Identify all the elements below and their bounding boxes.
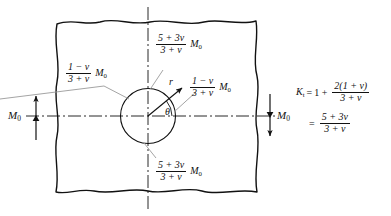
kt-symbol: Kt <box>296 86 305 98</box>
applied-moment-arrow-right-mid <box>267 112 274 118</box>
top-moment-numerator: 5 + 3ν <box>156 33 186 44</box>
equals-sign-2: = <box>309 118 315 129</box>
label-top-moment: 5 + 3ν 3 + ν M0 <box>156 33 202 55</box>
equation-1-denominator: 3 + ν <box>332 92 369 104</box>
right-moment-numerator: 1 − ν <box>190 76 215 87</box>
equation-1-numerator: 2(1 + ν) <box>332 81 369 92</box>
label-right-moment: 1 − ν 3 + ν M0 <box>190 76 231 98</box>
top-moment-factor: M0 <box>190 38 202 50</box>
label-radius: r <box>169 76 173 87</box>
left-moment-factor: M0 <box>95 67 107 79</box>
left-moment-denominator: 3 + ν <box>66 73 91 85</box>
label-bottom-moment: 5 + 3ν 3 + ν M0 <box>156 160 202 182</box>
equation-2-denominator: 3 + ν <box>320 123 350 135</box>
top-moment-denominator: 3 + ν <box>156 44 186 56</box>
stress-concentration-equation: Kt = 1 + 2(1 + ν) 3 + ν = 5 + 3ν 3 + ν <box>296 81 369 134</box>
bottom-moment-denominator: 3 + ν <box>156 171 186 183</box>
equation-2-numerator: 5 + 3ν <box>320 112 350 123</box>
equation-line-1: Kt = 1 + 2(1 + ν) 3 + ν <box>296 81 369 103</box>
equation-line-2: = 5 + 3ν 3 + ν <box>309 112 369 134</box>
label-left-moment: 1 − ν 3 + ν M0 <box>66 62 107 84</box>
bottom-moment-factor: M0 <box>190 165 202 177</box>
equals-sign-1: = <box>307 87 313 98</box>
label-theta: θ <box>165 106 170 117</box>
one-plus: 1 + <box>314 87 327 98</box>
figure-root: 5 + 3ν 3 + ν M0 5 + 3ν 3 + ν M0 1 − ν 3 … <box>0 0 391 216</box>
bottom-moment-numerator: 5 + 3ν <box>156 160 186 171</box>
right-moment-factor: M0 <box>219 81 231 93</box>
right-moment-denominator: 3 + ν <box>190 87 215 99</box>
left-moment-numerator: 1 − ν <box>66 62 91 73</box>
label-applied-moment-right: M0 <box>277 109 290 123</box>
label-applied-moment-left: M0 <box>8 109 21 123</box>
